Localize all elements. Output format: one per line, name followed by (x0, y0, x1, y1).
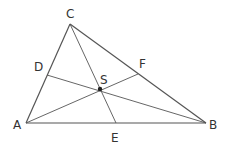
centroid-point-s (98, 87, 102, 91)
label-a: A (13, 118, 22, 132)
label-e: E (111, 131, 119, 145)
median-af (26, 74, 138, 123)
side-bc (70, 24, 206, 123)
triangle-diagram: C D F S A B E (0, 0, 229, 147)
label-b: B (209, 118, 217, 132)
label-c: C (66, 7, 74, 21)
diagram-canvas: C D F S A B E (0, 0, 229, 147)
label-s: S (100, 73, 108, 87)
median-ce (70, 24, 116, 123)
side-ca (26, 24, 70, 123)
median-bd (47, 75, 206, 123)
label-d: D (34, 60, 43, 74)
label-f: F (139, 57, 146, 71)
